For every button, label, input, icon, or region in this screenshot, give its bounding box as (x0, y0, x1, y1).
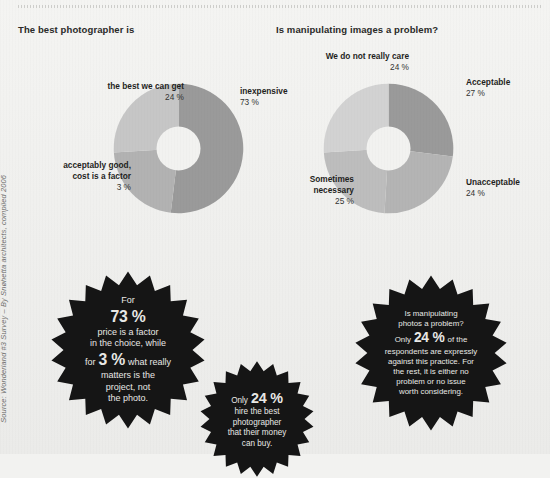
label-sometimes-pct: 25 % (262, 196, 354, 207)
starburst-shape-icon (352, 274, 510, 432)
donut-hole (366, 126, 410, 170)
chart-block-photographer: The best photographer is the best we can… (18, 24, 268, 239)
label-sometimes-name-line1: Sometimes (262, 174, 354, 185)
label-acceptable-name: Acceptable (466, 77, 550, 88)
label-acceptably-name-line1: acceptably good, (26, 160, 131, 171)
label-we-do-not-really-care: We do not really care 24 % (276, 51, 409, 73)
label-acceptably-good: acceptably good, cost is a factor 3 % (26, 160, 131, 193)
label-best-pct: 24 % (54, 92, 184, 103)
starburst-badge-hire-best: Only 24 % hire the best photographer tha… (198, 360, 316, 478)
label-unacceptable-name: Unacceptable (466, 177, 550, 188)
chart-right-heading: Is manipulating images a problem? (276, 24, 542, 35)
label-sometimes-name-line2: necessary (262, 185, 354, 196)
starburst-shape-icon (48, 270, 208, 430)
label-acceptable: Acceptable 27 % (466, 77, 550, 99)
label-unacceptable: Unacceptable 24 % (466, 177, 550, 199)
label-sometimes-necessary: Sometimes necessary 25 % (262, 174, 354, 207)
label-best-name: the best we can get (54, 81, 184, 92)
label-acceptably-pct: 3 % (26, 182, 131, 193)
chart-block-manipulation: Is manipulating images a problem? We do … (276, 24, 542, 239)
label-nocare-pct: 24 % (276, 62, 409, 73)
label-unacceptable-pct: 24 % (466, 188, 550, 199)
label-nocare-name: We do not really care (276, 51, 409, 62)
label-acceptably-name-line2: cost is a factor (26, 171, 131, 182)
label-best-we-can-get: the best we can get 24 % (54, 81, 184, 103)
top-dotted-rule (18, 5, 542, 8)
starburst-shape-icon (198, 360, 316, 478)
chart-left-heading: The best photographer is (18, 24, 268, 35)
donut-hole (156, 126, 200, 170)
label-acceptable-pct: 27 % (466, 88, 550, 99)
starburst-badge-manipulating-photos: Is manipulating photos a problem? Only 2… (352, 274, 510, 432)
starburst-badge-price-factor: For 73 % price is a factor in the choice… (48, 270, 208, 430)
source-credit: Source: Wonderland #3 Survey – By Snøhet… (0, 175, 8, 423)
